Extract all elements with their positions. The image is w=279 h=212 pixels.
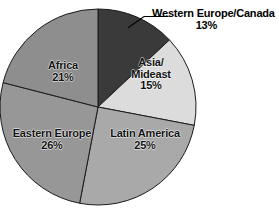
slice-label-name: Latin America: [103, 128, 187, 140]
slice-label-western-europe-canada: Western Europe/Canada 13%: [152, 8, 275, 31]
pie-slices-group: [0, 9, 196, 205]
slice-label-latin-america: Latin America 25%: [103, 128, 187, 151]
slice-label-eastern-europe: Eastern Europe 26%: [8, 128, 96, 151]
slice-label-value: 25%: [103, 140, 187, 152]
slice-label-name: Africa: [32, 60, 94, 72]
pie-slice-latin-america: [80, 107, 195, 205]
slice-label-name: Eastern Europe: [8, 128, 96, 140]
slice-label-value: 26%: [8, 140, 96, 152]
pie-chart-canvas: [0, 0, 279, 212]
slice-label-asia-mideast: Asia/ Mideast 15%: [120, 57, 182, 92]
slice-label-value: 15%: [120, 80, 182, 92]
slice-label-value: 13%: [152, 20, 275, 32]
pie-chart: Western Europe/Canada 13% Asia/ Mideast …: [0, 0, 279, 212]
slice-label-name: Western Europe/Canada: [152, 8, 275, 20]
slice-label-name-line1: Asia/: [120, 57, 182, 69]
slice-label-africa: Africa 21%: [32, 60, 94, 83]
slice-label-value: 21%: [32, 72, 94, 84]
